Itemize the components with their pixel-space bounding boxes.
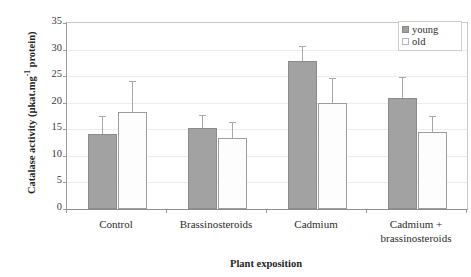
legend-swatch-young-icon (402, 26, 409, 33)
legend-swatch-old-icon (402, 38, 409, 45)
legend-label-young: young (412, 24, 438, 35)
bar-chart-figure: Catalase activity (µkat.mg-1 protein) 05… (0, 0, 471, 277)
x-axis-category-label: Brassinosteroids (166, 217, 266, 231)
error-bar (232, 122, 233, 138)
x-axis-tick-mark (266, 209, 267, 213)
error-bar-cap (129, 81, 136, 82)
x-axis-category-label-line: Brassinosteroids (166, 217, 266, 231)
bar-old (118, 112, 147, 209)
error-bar (332, 78, 333, 102)
x-axis-tick-mark (166, 209, 167, 213)
bar-young (388, 98, 417, 209)
bar-old (418, 132, 447, 209)
error-bar-cap (299, 46, 306, 47)
bar-group (67, 23, 167, 209)
y-axis-tick-label: 35 (36, 16, 62, 26)
legend-entry-old: old (402, 36, 458, 47)
error-bar-cap (429, 116, 436, 117)
error-bar (102, 116, 103, 134)
x-axis-category-label-line: Control (66, 217, 166, 231)
error-bar-cap (229, 122, 236, 123)
error-bar (402, 77, 403, 98)
y-axis-tick-label: 0 (36, 202, 62, 212)
x-axis-category-label: Cadmium (266, 217, 366, 231)
legend-entry-young: young (402, 24, 458, 35)
bar-group (267, 23, 367, 209)
error-bar (302, 46, 303, 61)
x-axis-category-labels: ControlBrassinosteroidsCadmiumCadmium +b… (66, 217, 466, 257)
error-bar (132, 81, 133, 112)
x-axis-category-label-line: Cadmium + (366, 217, 466, 231)
x-axis-tick-mark (66, 209, 67, 213)
x-axis-title: Plant exposition (66, 258, 466, 269)
x-axis-category-label-line: Cadmium (266, 217, 366, 231)
legend-label-old: old (412, 36, 425, 47)
y-axis-tick-labels: 05101520253035 (30, 0, 62, 277)
bar-group (167, 23, 267, 209)
bar-young (88, 134, 117, 209)
x-axis-category-label: Control (66, 217, 166, 231)
error-bar-cap (199, 115, 206, 116)
bar-young (288, 61, 317, 209)
x-axis-category-label: Cadmium +brassinosteroids (366, 217, 466, 245)
error-bar-cap (99, 116, 106, 117)
error-bar (432, 116, 433, 132)
bar-old (218, 138, 247, 209)
y-axis-tick-label: 20 (36, 96, 62, 106)
y-axis-tick-label: 15 (36, 122, 62, 132)
y-axis-tick-label: 30 (36, 43, 62, 53)
bar-old (318, 103, 347, 209)
error-bar-cap (399, 77, 406, 78)
bar-young (188, 128, 217, 209)
error-bar-cap (329, 78, 336, 79)
y-axis-tick-label: 25 (36, 69, 62, 79)
chart-legend: young old (398, 21, 462, 51)
x-axis-category-label-line: brassinosteroids (366, 231, 466, 245)
y-axis-tick-label: 5 (36, 175, 62, 185)
x-axis-tick-mark (466, 209, 467, 213)
y-axis-tick-label: 10 (36, 149, 62, 159)
error-bar (202, 115, 203, 128)
x-axis-tick-marks (66, 209, 468, 215)
x-axis-tick-mark (366, 209, 367, 213)
